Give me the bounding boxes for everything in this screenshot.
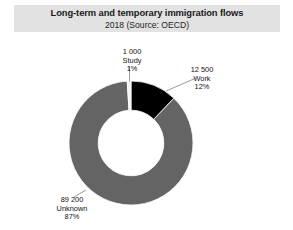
data-label-work-percent: 12% xyxy=(171,83,233,92)
data-label-unknown: 89 200 Unknown 87% xyxy=(36,196,108,222)
donut-slice-group xyxy=(69,81,193,205)
data-label-study: 1 000 Study 1% xyxy=(100,48,164,74)
data-label-work: 12 500 Work 12% xyxy=(171,66,233,92)
data-label-study-percent: 1% xyxy=(100,65,164,74)
data-label-unknown-percent: 87% xyxy=(36,213,108,222)
chart-figure: Long-term and temporary immigration flow… xyxy=(0,0,293,230)
